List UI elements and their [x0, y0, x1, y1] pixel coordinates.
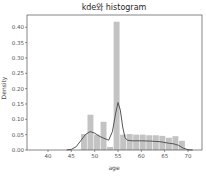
y-tick-label: 0.15: [12, 101, 25, 107]
x-tick-label: 65: [161, 153, 168, 159]
y-tick-label: 0.05: [12, 132, 25, 138]
histogram-bar: [140, 135, 146, 150]
y-axis-label: Density: [0, 76, 8, 99]
histogram-bar: [172, 136, 178, 150]
y-tick-label: 0.10: [12, 116, 25, 122]
x-tick-label: 60: [138, 153, 145, 159]
y-tick-label: 0.35: [12, 40, 25, 46]
x-tick-label: 45: [68, 153, 75, 159]
x-tick-label: 70: [185, 153, 192, 159]
histogram-bar: [127, 134, 133, 150]
histogram-bar: [133, 135, 139, 150]
y-tick-label: 0.30: [12, 55, 25, 61]
histogram-bar: [153, 135, 159, 150]
y-tick-label: 0.00: [12, 147, 25, 153]
histogram-bar: [114, 22, 120, 150]
y-tick-label: 0.25: [12, 70, 25, 76]
histogram-bar: [101, 122, 107, 150]
x-tick-label: 55: [115, 153, 122, 159]
histogram-bar: [146, 135, 152, 150]
histogram-bar: [94, 135, 100, 150]
x-axis-label: age: [108, 164, 119, 172]
histogram-bar: [107, 147, 113, 150]
y-tick-label: 0.20: [12, 86, 25, 92]
chart: kde와 histogram 404550556065700.000.050.1…: [0, 0, 206, 179]
x-tick-label: 50: [91, 153, 98, 159]
x-tick-label: 40: [45, 153, 52, 159]
plot-area: 404550556065700.000.050.100.150.200.250.…: [12, 15, 202, 159]
chart-title: kde와 histogram: [82, 2, 147, 12]
y-tick-label: 0.40: [12, 24, 25, 30]
